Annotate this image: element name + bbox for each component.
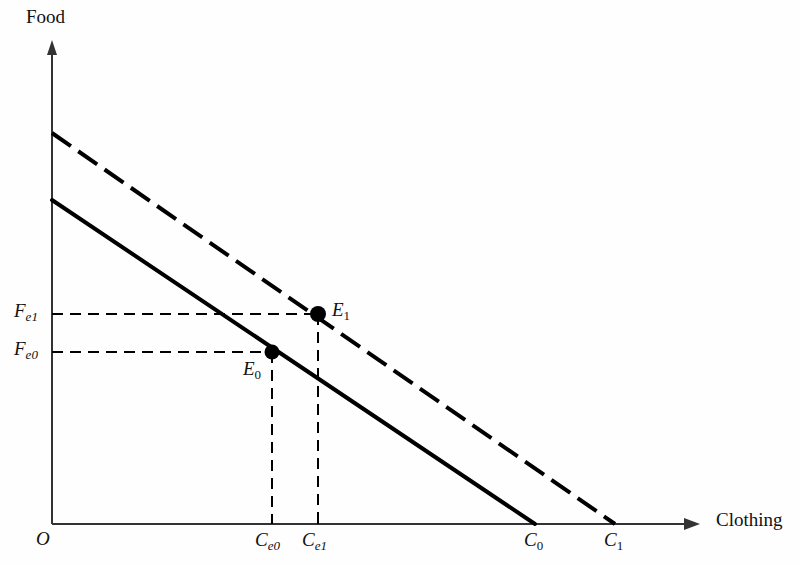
figure-background: [0, 0, 800, 564]
x-tick-label-c1: C1: [604, 529, 623, 554]
origin-label: O: [36, 528, 50, 550]
y-tick-label-fe1: Fe1: [14, 300, 38, 325]
x-axis-label: Clothing: [716, 509, 783, 531]
point-label-e1: E1: [332, 299, 350, 324]
x-tick-label-ce0: Ce0: [255, 529, 280, 554]
budget-constraint-diagram: [0, 0, 800, 564]
point-e0: [265, 345, 280, 360]
point-e1: [310, 306, 326, 322]
point-label-e0: E0: [243, 358, 261, 383]
x-tick-label-ce1: Ce1: [302, 529, 327, 554]
y-tick-label-fe0: Fe0: [14, 338, 38, 363]
x-tick-label-c0: C0: [524, 529, 543, 554]
y-axis-label: Food: [26, 6, 65, 28]
